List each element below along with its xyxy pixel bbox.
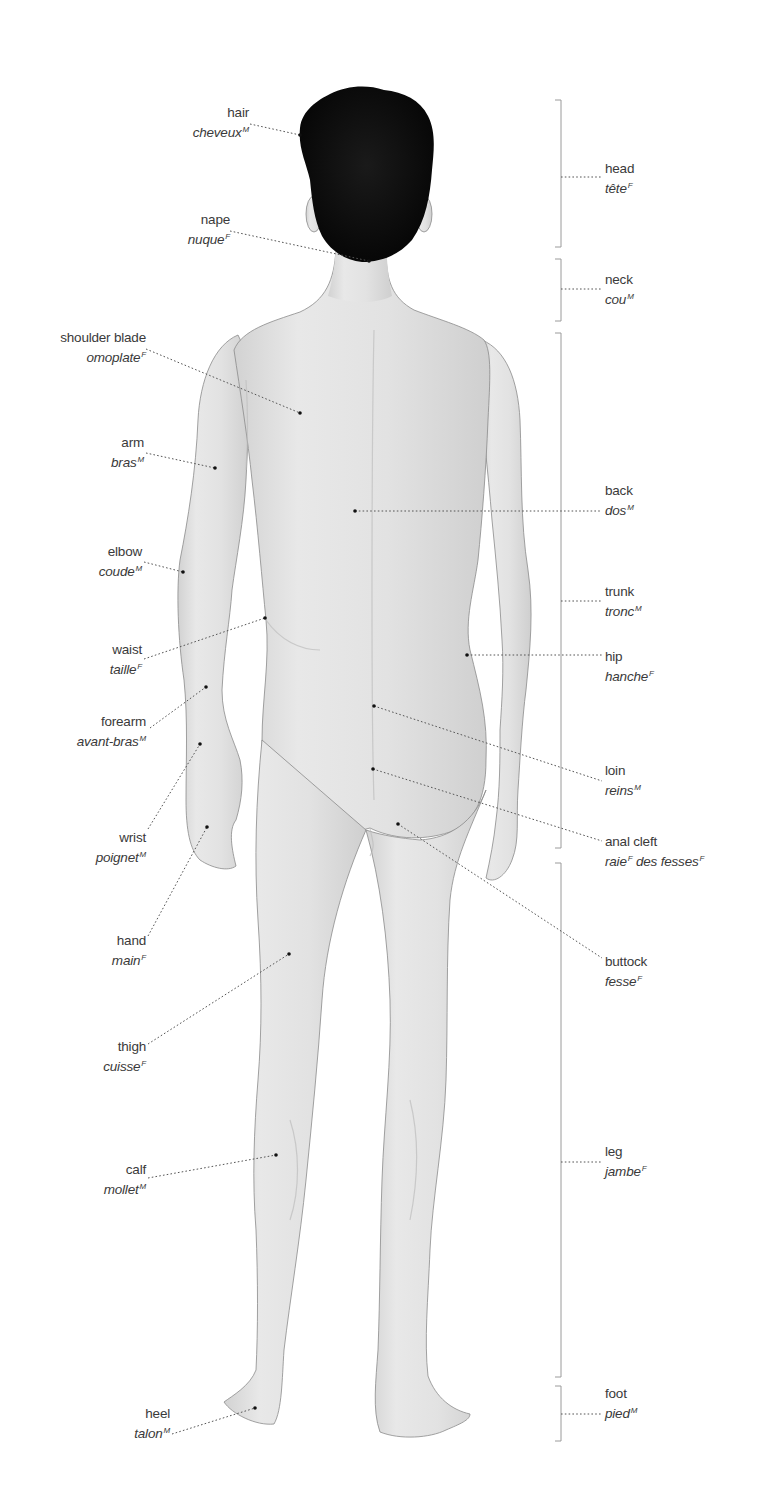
- dot-calf: [274, 1153, 278, 1157]
- dot-arm: [213, 466, 217, 470]
- label-hip: hip hancheF: [605, 648, 654, 685]
- dot-hip: [465, 653, 469, 657]
- leader-hair: [250, 124, 300, 135]
- label-shoulder-blade: shoulder blade omoplateF: [60, 329, 146, 366]
- body-figure: [178, 196, 531, 1437]
- dot-thigh: [287, 952, 291, 956]
- leader-elbow: [144, 562, 183, 572]
- label-wrist: wrist poignetM: [96, 829, 146, 866]
- label-back: back dosM: [605, 482, 634, 519]
- label-thigh: thigh cuisseF: [103, 1038, 146, 1075]
- dot-wrist: [198, 742, 202, 746]
- label-anal-cleft: anal cleft raieF des fessesF: [605, 833, 704, 870]
- label-trunk: trunk troncM: [605, 583, 641, 620]
- label-elbow: elbow coudeM: [99, 543, 142, 580]
- bracket-head: [555, 100, 561, 247]
- label-waist: waist tailleF: [110, 641, 142, 678]
- left-leg: [224, 740, 366, 1424]
- label-forearm: forearm avant-brasM: [77, 713, 146, 750]
- label-head: head têteF: [605, 160, 634, 197]
- label-heel: heel talonM: [134, 1405, 170, 1442]
- hair: [300, 87, 434, 262]
- dot-hair: [298, 133, 302, 137]
- dot-elbow: [181, 570, 185, 574]
- bracket-foot: [555, 1386, 561, 1441]
- label-calf: calf molletM: [104, 1161, 146, 1198]
- dot-loin: [372, 704, 376, 708]
- dot-anal-cleft: [371, 767, 375, 771]
- label-buttock: buttock fesseF: [605, 953, 647, 990]
- label-leg: leg jambeF: [605, 1143, 646, 1180]
- label-foot: foot piedM: [605, 1385, 637, 1422]
- dot-waist: [263, 616, 267, 620]
- bracket-neck: [555, 259, 561, 321]
- dot-nape: [367, 259, 371, 263]
- dot-back: [353, 509, 357, 513]
- dot-shoulder-blade: [298, 411, 302, 415]
- dot-forearm: [204, 685, 208, 689]
- label-hand: hand mainF: [112, 932, 146, 969]
- left-arm: [178, 335, 250, 869]
- label-neck: neck couM: [605, 271, 634, 308]
- dot-heel: [253, 1406, 257, 1410]
- anatomy-diagram: hair cheveuxM nape nuqueF shoulder blade…: [0, 0, 764, 1493]
- region-brackets: [555, 100, 561, 1441]
- label-hair: hair cheveuxM: [193, 104, 249, 141]
- dot-buttock: [396, 822, 400, 826]
- label-arm: arm brasM: [111, 434, 144, 471]
- label-loin: loin reinsM: [605, 762, 641, 799]
- dot-hand: [205, 825, 209, 829]
- right-leg: [366, 790, 486, 1437]
- label-nape: nape nuqueF: [188, 211, 230, 248]
- bracket-trunk: [555, 333, 561, 848]
- bracket-leg: [555, 863, 561, 1377]
